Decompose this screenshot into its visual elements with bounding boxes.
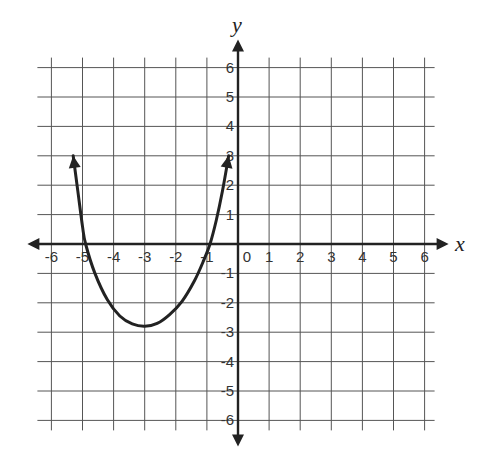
y-tick-label: 4: [226, 117, 234, 134]
series-layer: [69, 155, 233, 327]
x-tick-label: 4: [358, 248, 366, 265]
y-tick-label: 6: [226, 59, 234, 76]
x-axis-right-arrow: [437, 238, 449, 250]
x-tick-label: 1: [265, 248, 273, 265]
y-tick-label: -6: [221, 411, 234, 428]
y-tick-label: -5: [221, 382, 234, 399]
x-tick-label: 5: [389, 248, 397, 265]
x-tick-label: 2: [296, 248, 304, 265]
x-axis-title: x: [454, 231, 465, 256]
y-tick-label: -1: [221, 264, 234, 281]
y-tick-label: 1: [226, 206, 234, 223]
series-curve: [73, 156, 229, 327]
coordinate-plane: -6-5-4-3-2-10123456654321-1-2-3-4-5-6 x …: [0, 0, 494, 473]
axes: [27, 40, 448, 447]
y-tick-label: -3: [221, 323, 234, 340]
x-tick-label: 6: [420, 248, 428, 265]
x-tick-label: 3: [327, 248, 335, 265]
x-tick-label: -4: [107, 248, 120, 265]
x-tick-label: -6: [45, 248, 58, 265]
x-tick-label: -3: [138, 248, 151, 265]
y-tick-label: -2: [221, 294, 234, 311]
x-tick-label: 0: [243, 248, 251, 265]
x-axis-left-arrow: [27, 238, 39, 250]
y-tick-label: -4: [221, 353, 234, 370]
x-tick-label: -2: [169, 248, 182, 265]
y-tick-label: 5: [226, 88, 234, 105]
y-axis-top-arrow: [232, 40, 244, 52]
y-axis-title: y: [230, 12, 242, 37]
y-tick-label: 2: [226, 176, 234, 193]
y-axis-bottom-arrow: [232, 434, 244, 446]
